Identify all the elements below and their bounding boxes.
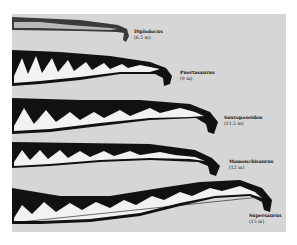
neck-mamenchisaurus bbox=[12, 142, 220, 176]
label-mamenchisaurus: Mamenchisaurus (12 m) bbox=[229, 159, 273, 171]
neck-length: (11.5 m) bbox=[224, 121, 262, 127]
neck-sauroposeidon bbox=[12, 98, 218, 134]
neck-supersaurus bbox=[12, 180, 272, 224]
neck-puertasaurus bbox=[12, 50, 172, 86]
genus-name: Diplodocus bbox=[134, 29, 163, 34]
label-diplodocus: Diplodocus (6.2 m) bbox=[134, 29, 163, 41]
label-sauroposeidon: Sauroposeidon (11.5 m) bbox=[224, 115, 262, 127]
genus-name: Puertasaurus bbox=[180, 70, 215, 75]
neck-length: (9 m) bbox=[180, 76, 215, 82]
genus-name: Mamenchisaurus bbox=[229, 159, 273, 164]
neck-diplodocus bbox=[12, 17, 129, 42]
genus-name: Supersaurus bbox=[249, 213, 281, 218]
label-puertasaurus: Puertasaurus (9 m) bbox=[180, 70, 215, 82]
genus-name: Sauroposeidon bbox=[224, 115, 262, 120]
label-supersaurus: Supersaurus (15 m) bbox=[249, 213, 281, 225]
neck-length: (15 m) bbox=[249, 219, 281, 225]
neck-length: (12 m) bbox=[229, 165, 273, 171]
neck-length: (6.2 m) bbox=[134, 35, 163, 41]
